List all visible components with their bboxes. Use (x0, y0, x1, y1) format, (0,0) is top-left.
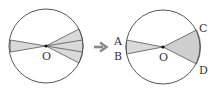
left-figure: O (9, 9, 83, 83)
sector-aob (126, 40, 163, 54)
point-label-c: C (199, 22, 207, 35)
right-arrow-icon (94, 43, 107, 52)
center-label: O (42, 50, 51, 63)
point-label-b: B (114, 50, 122, 63)
left-sector-west (10, 40, 46, 52)
sector-cod (163, 30, 201, 64)
right-figure: O A B C D (113, 10, 208, 84)
point-label-a: A (113, 35, 123, 48)
center-point (44, 44, 47, 47)
center-point (161, 45, 164, 48)
center-label: O (159, 51, 168, 64)
point-label-d: D (199, 64, 208, 77)
left-sector-east (46, 29, 83, 63)
sector-diagram: O O A B C D (0, 0, 216, 93)
